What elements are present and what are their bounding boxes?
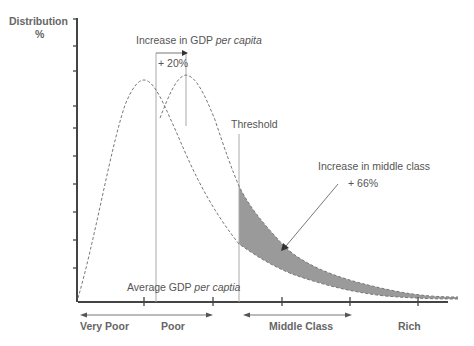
middle-class-pointer bbox=[286, 184, 338, 246]
category-very-poor: Very Poor bbox=[80, 320, 129, 332]
y-axis-label: Distribution bbox=[9, 15, 68, 27]
poor-range-arrow bbox=[80, 313, 213, 318]
category-poor: Poor bbox=[161, 320, 185, 332]
y-axis-unit: % bbox=[35, 28, 45, 40]
category-rich: Rich bbox=[398, 320, 421, 332]
arrow-head-icon bbox=[182, 50, 188, 56]
gdp-increase-title: Increase in GDP per capita bbox=[136, 34, 262, 46]
category-middle-class: Middle Class bbox=[269, 320, 333, 332]
middle-class-shaded-area bbox=[239, 186, 458, 299]
gdp-increase-value: + 20% bbox=[158, 57, 188, 69]
middle-class-increase-value: + 66% bbox=[348, 177, 378, 189]
distribution-curve-after bbox=[160, 75, 458, 297]
middle-class-range-arrow bbox=[243, 313, 352, 318]
distribution-curve-before bbox=[78, 80, 458, 299]
threshold-label: Threshold bbox=[231, 118, 278, 130]
distribution-diagram: Distribution % Increase in GDP per capit… bbox=[0, 0, 474, 346]
middle-class-increase-label: Increase in middle class bbox=[318, 160, 430, 172]
average-gdp-label: Average GDP per captia bbox=[127, 281, 241, 293]
